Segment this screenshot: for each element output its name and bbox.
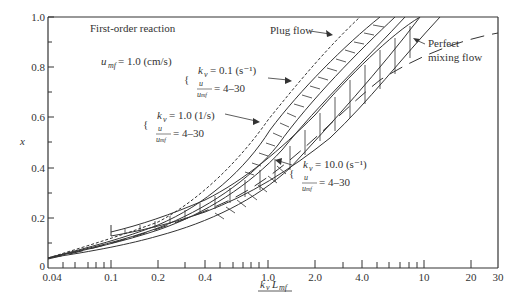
plug-flow-curve (48, 17, 360, 258)
svg-text:umf: umf (156, 135, 167, 144)
y-tick-label: 0.6 (31, 111, 45, 123)
svg-text:v: v (163, 115, 167, 124)
svg-text:= 4–30: = 4–30 (214, 82, 245, 94)
x-tick-label: 0.04 (42, 271, 62, 283)
svg-text:mf: mf (108, 61, 118, 70)
svg-text:v: v (204, 70, 208, 79)
svg-text:= 10.0 (s⁻¹): = 10.0 (s⁻¹) (315, 158, 367, 171)
svg-text:umf: umf (197, 90, 208, 99)
svg-text:= 1.0 (1/s): = 1.0 (1/s) (169, 109, 215, 122)
svg-text:u: u (199, 79, 203, 88)
band1-annotation: { k v = 0.1 (s⁻¹) u umf = 4–30 (184, 64, 292, 99)
plug-flow-label: Plug flow (270, 24, 313, 36)
chart: 1.0 0.8 0.6 0.4 0.2 0 x 0.04 (0, 0, 521, 295)
svg-text:= 1.0 (cm/s): = 1.0 (cm/s) (118, 55, 172, 68)
svg-text:L: L (271, 278, 278, 290)
x-tick-label: 20 (466, 271, 478, 283)
svg-text:{: { (289, 167, 294, 179)
y-axis-ticks (48, 17, 54, 243)
x-tick-label: 4.0 (355, 271, 369, 283)
band3-annotation: { k v = 10.0 (s⁻¹) u umf = 4–30 (275, 158, 367, 193)
y-tick-label: 0.2 (31, 212, 45, 224)
perfect-mixing-label-1: Perfect (428, 37, 459, 49)
band2-annotation: { k v = 1.0 (1/s) u umf = 4–30 (143, 109, 260, 144)
y-axis-label: x (19, 135, 25, 147)
svg-text:u: u (158, 124, 162, 133)
perfect-mixing-label-2: mixing flow (428, 51, 482, 63)
reaction-label: First-order reaction (90, 22, 176, 34)
svg-text:= 0.1 (s⁻¹): = 0.1 (s⁻¹) (210, 64, 257, 77)
band-kv-1.0 (48, 17, 405, 258)
x-tick-label: 2.0 (308, 271, 322, 283)
svg-text:umf: umf (302, 184, 313, 193)
svg-text:= 4–30: = 4–30 (319, 176, 350, 188)
y-tick-label: 0.8 (31, 61, 45, 73)
svg-text:u: u (304, 173, 308, 182)
x-tick-label: 0.2 (151, 271, 165, 283)
x-axis-label: k v L mf (258, 278, 292, 292)
x-tick-label: 30 (493, 271, 505, 283)
umf-label: u mf = 1.0 (cm/s) (101, 55, 172, 70)
svg-text:{: { (143, 118, 148, 130)
y-tick-label: 1.0 (31, 11, 45, 23)
x-tick-label: 10 (419, 271, 431, 283)
y-tick-label: 0.4 (31, 162, 45, 174)
x-axis-ticks (63, 260, 471, 268)
svg-text:u: u (101, 55, 107, 67)
svg-text:{: { (184, 73, 189, 85)
svg-text:v: v (309, 164, 313, 173)
x-tick-label: 0.1 (104, 271, 118, 283)
x-tick-label: 0.4 (198, 271, 212, 283)
svg-text:= 4–30: = 4–30 (173, 127, 204, 139)
y-axis-labels: 1.0 0.8 0.6 0.4 0.2 0 (31, 11, 45, 272)
